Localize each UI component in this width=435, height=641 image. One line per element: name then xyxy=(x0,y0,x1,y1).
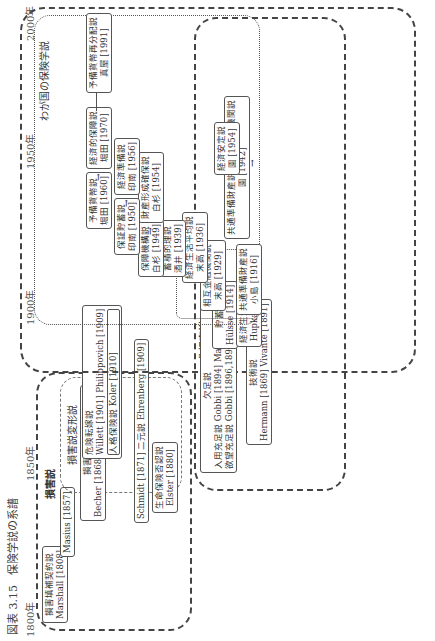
arrow-icon: → xyxy=(146,227,155,235)
year-1800: 1800年 xyxy=(22,602,37,637)
box-economic-stability: 経済安定説 園 [1954] xyxy=(214,122,240,175)
box-masius: Masius [1857] xyxy=(60,487,75,557)
japan-theory-label: わが国の保険学説 xyxy=(36,41,51,121)
box-asset-formation: 財産形成確保説 白杉 [1954] xyxy=(138,152,164,223)
damage-variant-label: 損害説変形説 xyxy=(64,405,79,465)
connector-line xyxy=(96,93,97,111)
box-common-reserve: 共通準備財産説 小島 [1916] xyxy=(236,244,262,315)
arrow-icon: → xyxy=(94,173,103,181)
figure-number: 図表 3.15 xyxy=(7,585,20,635)
box-reserve-redistribution: 予備貨幣再分配説 真屋 [1991] xyxy=(86,13,112,93)
damage-theory-label: 損害説 xyxy=(42,469,57,499)
arrow-icon: → xyxy=(248,159,257,167)
year-1850: 1850年 xyxy=(22,446,37,481)
figure-caption: 図表 3.15 保険学説の系譜 xyxy=(4,498,20,636)
figure-title: 保険学説の系譜 xyxy=(7,498,20,575)
box-economic-preparation: 経済準備説 印南 [1956] xyxy=(114,138,140,195)
box-life-insurance-denial: 生命保険否認説 Elster [1880] xyxy=(152,442,178,513)
box-economic-security: 経済的保障説 堀田 [1970] xyxy=(86,107,112,169)
box-indemnity-contract: 損害填補契約説 Marshall [1808] xyxy=(42,546,68,623)
insurance-theory-genealogy-diagram: 図表 3.15 保険学説の系譜 1800年 1850年 1900年 1950年 … xyxy=(0,0,435,641)
arrow-icon: → xyxy=(122,199,131,207)
